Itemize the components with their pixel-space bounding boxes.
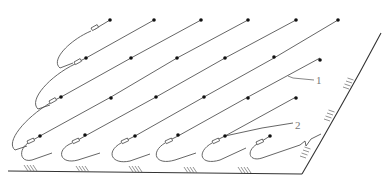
terrain <box>8 33 381 174</box>
nozzle-dot <box>59 95 63 99</box>
nozzle-dot <box>129 56 133 60</box>
callouts: 1 2 <box>288 74 322 131</box>
ground-line <box>8 171 302 174</box>
nozzle-dot <box>246 96 250 100</box>
pipe-layout-diagram: 1 2 <box>0 0 388 185</box>
nozzle-dot <box>109 96 113 100</box>
nozzle-dot <box>154 95 158 99</box>
fitting-icon <box>165 138 173 144</box>
nozzle-dot <box>202 95 206 99</box>
fitting-icon <box>212 138 220 144</box>
nozzle-dot <box>38 134 42 138</box>
wall-hatches <box>300 78 354 158</box>
fitting-icon <box>256 139 264 145</box>
lateral-pipe <box>22 20 248 160</box>
lateral-pipe <box>57 20 110 68</box>
nozzle-dot <box>223 56 227 60</box>
nozzle-dot <box>133 134 137 138</box>
fittings <box>27 25 264 145</box>
nozzle-dot <box>108 18 112 22</box>
ground-hatch-icon <box>238 167 251 173</box>
fitting-icon <box>49 98 57 104</box>
nozzle-dot <box>294 18 298 22</box>
callout-label-2: 2 <box>295 119 301 131</box>
slope-wall <box>302 33 381 174</box>
nozzle-dot <box>175 56 179 60</box>
nozzle-dot <box>83 133 87 137</box>
nozzle-dot <box>318 58 322 62</box>
lateral-pipe <box>36 20 154 109</box>
lateral-pipe <box>202 97 296 161</box>
callout-leader-1 <box>288 76 314 80</box>
lateral-pipe <box>250 136 300 159</box>
nozzle-dot <box>223 134 227 138</box>
nozzle-dot <box>336 18 340 22</box>
nozzle-dot <box>176 133 180 137</box>
nozzle-dot <box>84 56 88 60</box>
fitting-icon <box>121 138 129 144</box>
fitting-icon <box>27 138 35 144</box>
ground-hatch-icon <box>184 167 197 173</box>
nozzle-dot <box>272 55 276 59</box>
fitting-icon <box>91 25 99 31</box>
nozzle-dot <box>246 18 250 22</box>
nozzle-dot <box>294 96 298 100</box>
nozzle-dot <box>152 18 156 22</box>
fitting-icon <box>72 138 80 144</box>
lateral-pipes <box>12 20 338 162</box>
ground-hatch-icon <box>129 166 142 172</box>
ground-hatch-icon <box>76 166 89 172</box>
supply-pipe <box>300 134 321 146</box>
ground-hatch-icon <box>24 165 37 171</box>
callout-label-1: 1 <box>316 74 322 86</box>
lateral-pipe <box>12 20 201 150</box>
nozzle-dot <box>199 18 203 22</box>
lateral-pipe <box>112 20 338 162</box>
supply-pipe <box>225 123 293 136</box>
nozzle-dot <box>268 134 272 138</box>
wall-hatch-icon <box>300 147 311 158</box>
fitting-icon <box>74 59 82 65</box>
